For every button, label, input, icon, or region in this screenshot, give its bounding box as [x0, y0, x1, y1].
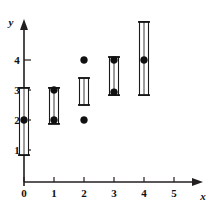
- x-tick-label-5: 5: [171, 187, 177, 199]
- y-axis-arrow-icon: [20, 19, 28, 30]
- x-tick-label-2: 2: [81, 187, 87, 199]
- x-axis-label: x: [199, 190, 206, 202]
- data-point-marker: [81, 117, 88, 124]
- x-tick-group: 0 1 2 3 4 5: [21, 177, 177, 199]
- data-point-marker: [21, 117, 28, 124]
- x-tick-label-1: 1: [51, 187, 57, 199]
- y-axis-label: y: [7, 16, 14, 28]
- data-point-marker: [51, 87, 58, 94]
- x-tick-label-4: 4: [141, 187, 147, 199]
- chart-figure: y x 4 3 2 1 0 1 2 3 4 5: [0, 0, 216, 208]
- y-tick-label-4: 4: [14, 54, 20, 66]
- data-point-marker: [111, 57, 118, 64]
- data-point-marker: [141, 57, 148, 64]
- data-point-marker: [111, 89, 118, 96]
- interval-bar: [78, 78, 90, 105]
- y-tick-label-1: 1: [14, 144, 20, 156]
- data-point-marker: [51, 117, 58, 124]
- data-point-marker: [81, 57, 88, 64]
- axis-group: [20, 19, 203, 186]
- chart-canvas: y x 4 3 2 1 0 1 2 3 4 5: [0, 0, 216, 208]
- interval-bar-layer: [18, 22, 150, 155]
- x-tick-label-3: 3: [111, 187, 117, 199]
- x-tick-label-0: 0: [21, 187, 27, 199]
- x-axis-arrow-icon: [192, 178, 203, 186]
